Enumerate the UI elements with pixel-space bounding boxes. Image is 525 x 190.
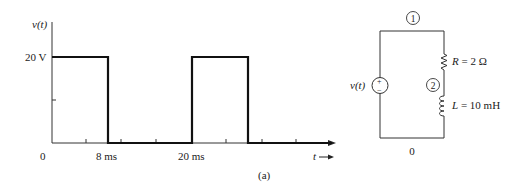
pulse-waveform [52, 57, 332, 143]
minus-sign: − [377, 86, 382, 95]
time-label-8ms: 8 ms [96, 150, 117, 162]
origin-label: 0 [40, 150, 46, 162]
figure: v(t) 20 V 0 8 ms 20 ms t (a) + − v(t) R … [0, 0, 525, 190]
resistor-icon [441, 52, 447, 72]
node-0-label: 0 [409, 145, 415, 157]
voltage-source-icon: + − [372, 77, 388, 95]
circuit-diagram: + − v(t) R = 2 Ω L = 10 mH 1 2 0 [350, 12, 500, 158]
y-axis-label: v(t) [32, 18, 48, 31]
node-1-marker: 1 [407, 12, 420, 25]
waveform-plot: v(t) 20 V 0 8 ms 20 ms t (a) [25, 18, 336, 182]
figure-label: (a) [258, 169, 271, 182]
resistor-label: R = 2 Ω [451, 55, 487, 67]
node-2-label: 2 [431, 81, 436, 91]
source-label: v(t) [350, 79, 366, 92]
inductor-label: L = 10 mH [451, 99, 500, 111]
node-2-marker: 2 [427, 79, 440, 92]
wire-bottom [380, 118, 444, 138]
inductor-icon [440, 93, 445, 118]
plus-sign: + [377, 77, 382, 86]
x-axis-label: t [313, 150, 317, 162]
node-1-label: 1 [411, 14, 416, 24]
x-label-arrowhead-icon [328, 155, 334, 160]
wire-top [380, 31, 444, 78]
time-label-20ms: 20 ms [178, 150, 205, 162]
level-label: 20 V [25, 51, 47, 63]
